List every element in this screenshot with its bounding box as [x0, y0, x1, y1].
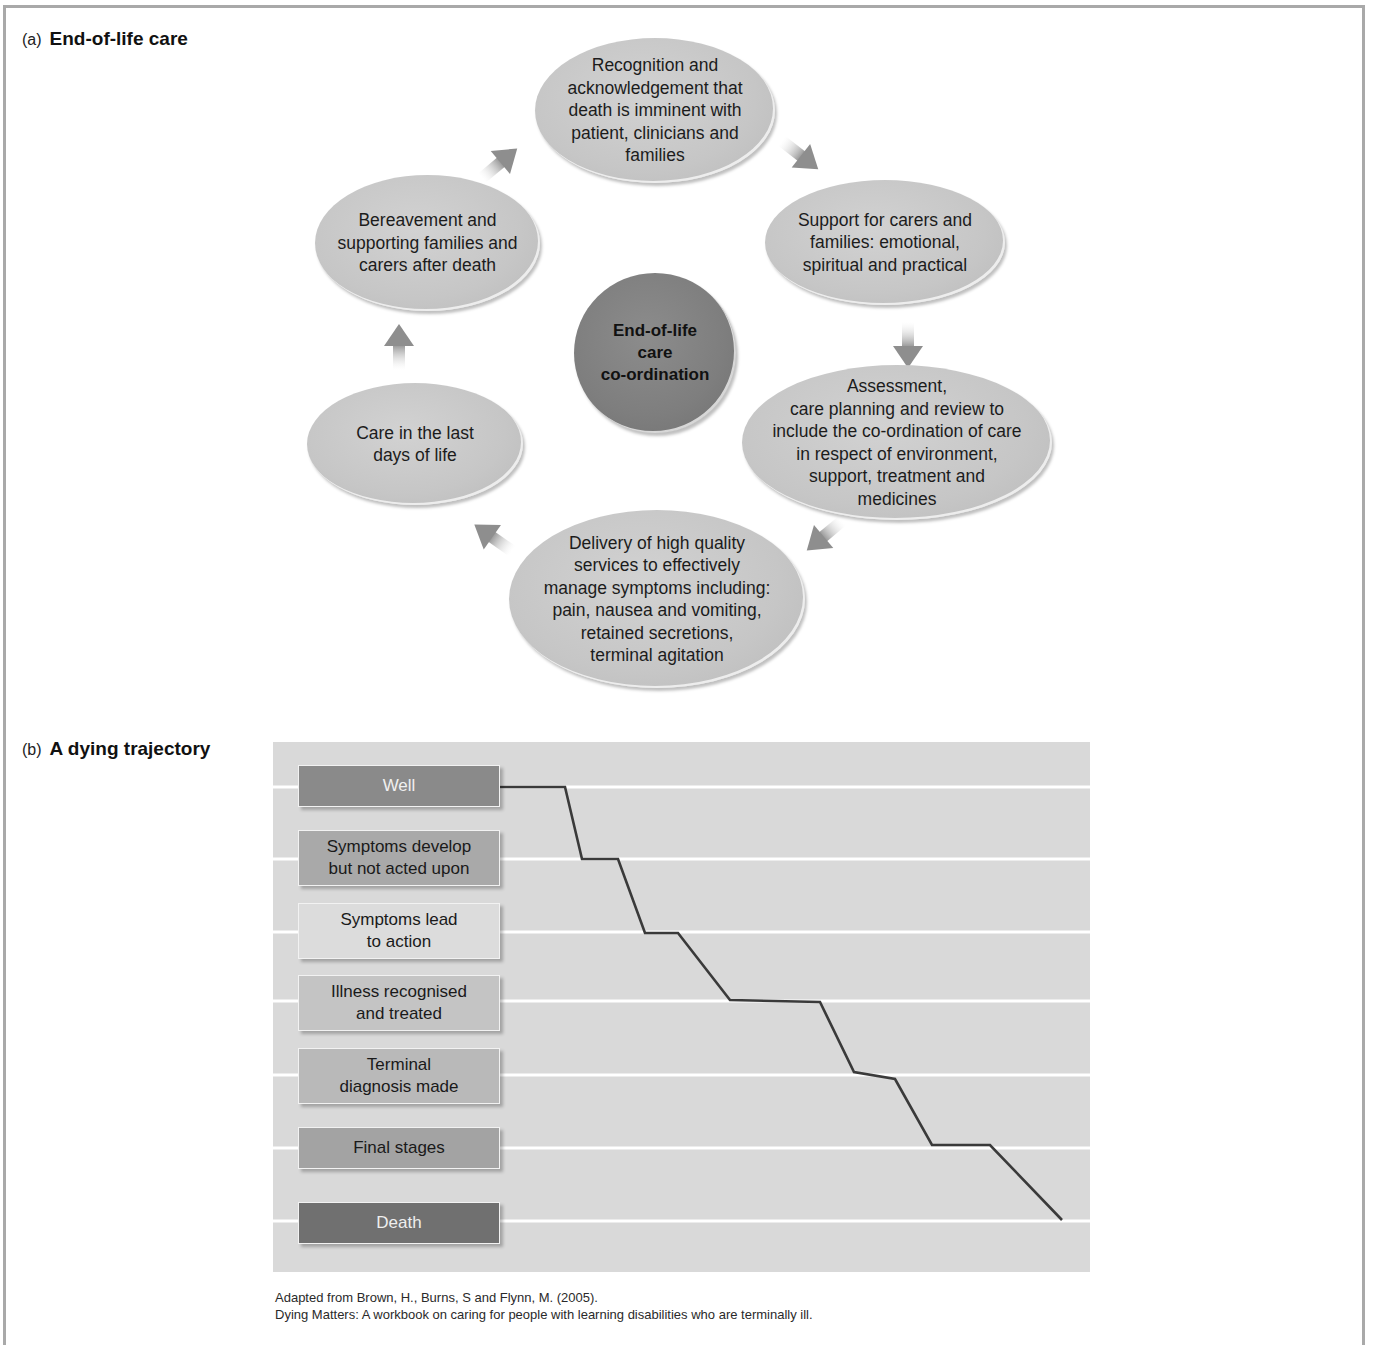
node-center-text: End-of-life care co-ordination — [601, 320, 710, 386]
citation: Adapted from Brown, H., Burns, S and Fly… — [275, 1289, 813, 1323]
stage-symptoms-develop: Symptoms develop but not acted upon — [298, 830, 500, 886]
node-center-coordination: End-of-life care co-ordination — [574, 273, 736, 433]
stage-final-stages-label: Final stages — [353, 1137, 445, 1159]
node-last-days-text: Care in the last days of life — [356, 422, 474, 467]
node-delivery: Delivery of high quality services to eff… — [509, 510, 805, 688]
stage-symptoms-lead-label: Symptoms lead to action — [340, 909, 457, 953]
trajectory-chart: Well Symptoms develop but not acted upon… — [273, 742, 1090, 1272]
node-support-text: Support for carers and families: emotion… — [798, 209, 972, 277]
arrow-icon-assessment-to-delivery — [797, 510, 852, 563]
node-bereavement-text: Bereavement and supporting families and … — [338, 209, 518, 277]
node-bereavement: Bereavement and supporting families and … — [315, 175, 540, 311]
part-b-title-text: A dying trajectory — [50, 738, 211, 759]
arrow-icon-support-to-assessment — [893, 322, 923, 368]
stage-terminal-diagnosis: Terminal diagnosis made — [298, 1048, 500, 1104]
node-support: Support for carers and families: emotion… — [765, 180, 1005, 305]
node-assessment: Assessment, care planning and review to … — [742, 365, 1052, 520]
arrow-icon-bereavement-to-recognition — [472, 137, 527, 190]
arrow-icon-recognition-to-support — [773, 129, 828, 181]
stage-final-stages: Final stages — [298, 1127, 500, 1169]
stage-well: Well — [298, 765, 500, 807]
stage-terminal-diagnosis-label: Terminal diagnosis made — [339, 1054, 458, 1098]
arrow-icon-last-days-to-bereavement — [384, 324, 414, 370]
stage-symptoms-lead: Symptoms lead to action — [298, 903, 500, 959]
part-b-letter: (b) — [22, 741, 42, 758]
trajectory-line — [500, 787, 1062, 1220]
stage-death-label: Death — [376, 1212, 421, 1234]
part-b-title: (b)A dying trajectory — [22, 738, 210, 760]
node-recognition: Recognition and acknowledgement that dea… — [535, 38, 775, 183]
citation-line-1: Adapted from Brown, H., Burns, S and Fly… — [275, 1289, 813, 1306]
stage-illness-recognised: Illness recognised and treated — [298, 975, 500, 1031]
node-delivery-text: Delivery of high quality services to eff… — [544, 532, 771, 667]
node-recognition-text: Recognition and acknowledgement that dea… — [567, 54, 742, 167]
node-assessment-text: Assessment, care planning and review to … — [772, 375, 1021, 510]
stage-death: Death — [298, 1202, 500, 1244]
stage-symptoms-develop-label: Symptoms develop but not acted upon — [327, 836, 472, 880]
stage-well-label: Well — [383, 775, 416, 797]
arrow-icon-delivery-to-last-days — [466, 512, 521, 563]
citation-line-2: Dying Matters: A workbook on caring for … — [275, 1306, 813, 1323]
stage-illness-recognised-label: Illness recognised and treated — [331, 981, 467, 1025]
node-last-days: Care in the last days of life — [307, 383, 523, 505]
